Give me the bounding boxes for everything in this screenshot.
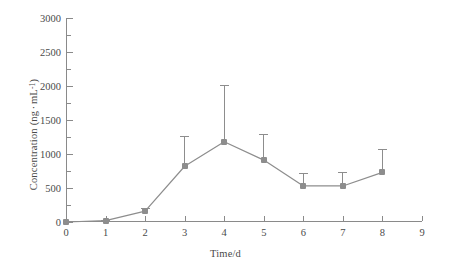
x-tick-label-1: 1: [103, 227, 108, 238]
plot-area: 050010001500200025003000 0123456789: [66, 18, 422, 222]
data-point-day-1: [103, 218, 109, 224]
y-axis-title-suffix: ): [28, 79, 39, 83]
data-point-day-0: [63, 219, 69, 225]
data-point-day-4: [221, 139, 227, 145]
y-tick-label-1000: 1000: [40, 149, 61, 160]
error-bar-cap-day-3: [180, 136, 189, 137]
chart-figure: Concentration (ng·mL-1) 0500100015002000…: [0, 0, 457, 269]
data-point-day-7: [340, 183, 346, 189]
error-bar-cap-day-5: [259, 134, 268, 135]
data-point-day-5: [261, 157, 267, 163]
x-tick-label-5: 5: [261, 227, 266, 238]
error-bar-cap-day-7: [338, 172, 347, 173]
error-bar-cap-day-6: [299, 173, 308, 174]
y-tick-label-3000: 3000: [40, 13, 61, 24]
data-point-day-2: [142, 208, 148, 214]
x-tick-label-3: 3: [182, 227, 187, 238]
x-tick-label-8: 8: [380, 227, 385, 238]
error-bar-cap-day-4: [220, 85, 229, 86]
x-tick-label-9: 9: [419, 227, 424, 238]
x-axis-title: Time/d: [0, 248, 457, 259]
y-axis-title: Concentration (ng·mL-1): [22, 0, 44, 269]
x-axis-title-text: Time/d: [210, 248, 241, 259]
x-tick-label-0: 0: [63, 227, 68, 238]
error-bar-stem-day-3: [184, 136, 185, 167]
x-tick-label-2: 2: [142, 227, 147, 238]
y-axis-title-middot: ·: [28, 104, 39, 111]
y-axis-title-prefix: Concentration (ng: [28, 111, 39, 191]
y-tick-label-2500: 2500: [40, 47, 61, 58]
series-line: [66, 18, 422, 222]
error-bar-stem-day-4: [224, 85, 225, 142]
y-tick-label-1500: 1500: [40, 115, 61, 126]
data-point-day-8: [379, 169, 385, 175]
x-tick-9: [422, 216, 423, 221]
x-tick-label-6: 6: [301, 227, 306, 238]
y-tick-label-2000: 2000: [40, 81, 61, 92]
y-axis-title-unit: mL: [28, 89, 39, 104]
data-point-day-6: [300, 183, 306, 189]
data-series-layer: [66, 18, 422, 222]
y-tick-label-500: 500: [45, 183, 61, 194]
x-tick-label-7: 7: [340, 227, 345, 238]
data-point-day-3: [182, 163, 188, 169]
y-tick-label-0: 0: [56, 217, 61, 228]
error-bar-cap-day-8: [378, 149, 387, 150]
x-tick-label-4: 4: [222, 227, 227, 238]
